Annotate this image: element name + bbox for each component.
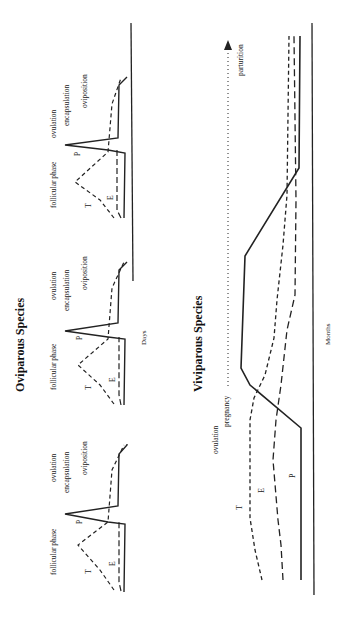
label-oviposition: oviposition [80,74,89,108]
T-curve [250,36,289,580]
label-T: T [84,385,93,390]
oviparous-panel: follicular phase ovulation encapsulation… [13,23,148,592]
P-curve [65,77,127,218]
label-E: E [257,488,266,493]
label-T: T [235,505,244,510]
hormone-profile-diagram: follicular phase ovulation encapsulation… [0,0,338,629]
label-T: T [84,203,93,208]
viviparous-baseline [312,23,314,595]
label-follicular-phase: follicular phase [49,343,58,390]
viviparous-panel: ovulation pregnancy parturition T E P Vi… [191,23,332,595]
label-oviposition: oviposition [80,441,89,475]
label-follicular-phase: follicular phase [49,161,58,208]
oviparous-cycle-1 [65,444,127,592]
label-ovulation: ovulation [49,271,58,300]
oviparous-cycle-2 [65,262,127,405]
label-T: T [84,569,93,574]
oviparous-baseline [131,23,133,281]
label-E: E [108,561,117,566]
label-P: P [73,152,82,156]
E-curve [117,150,121,218]
oviparous-cycle-3 [65,77,127,218]
label-P: P [75,336,84,340]
label-ovulation: ovulation [211,425,220,454]
E-curve [273,36,296,580]
P-curve [65,444,127,592]
x-axis-label-days: Days [140,330,148,345]
E-curve [119,337,121,405]
label-follicular-phase: follicular phase [49,528,58,575]
label-ovulation: ovulation [49,453,58,482]
label-encapsulation: encapsulation [62,270,71,311]
label-P: P [288,473,297,478]
viviparous-title: Viviparous Species [191,295,205,392]
label-P: P [75,520,84,524]
label-oviposition: oviposition [80,256,89,290]
label-pregnancy: pregnancy [222,396,231,427]
label-parturition: parturition [236,44,245,76]
label-E: E [106,195,115,200]
x-axis-label-months: Months [324,323,332,345]
label-encapsulation: encapsulation [62,452,71,493]
label-ovulation: ovulation [49,109,58,138]
P-curve [65,262,127,405]
label-encapsulation: encapsulation [62,85,71,126]
arrow-up-icon [224,40,232,50]
label-E: E [108,377,117,382]
E-curve [119,522,121,591]
oviparous-title: Oviparous Species [13,298,27,392]
P-curve [241,36,301,580]
